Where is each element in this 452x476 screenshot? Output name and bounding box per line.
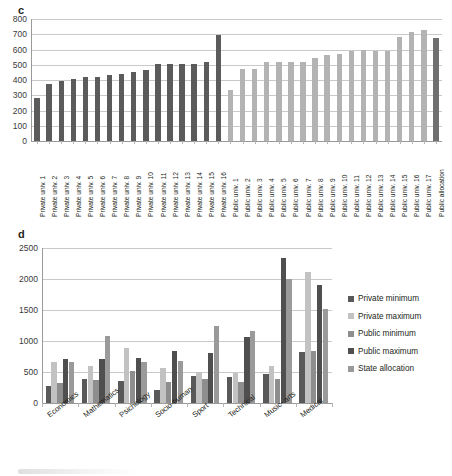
chart-c-x-label: Public univ. 13 [378,175,385,217]
chart-c-bar [131,72,136,141]
chart-c-x-label: Public univ. 17 [426,175,433,217]
x-axis-tick [388,141,389,144]
chart-c-x-label: Private univ. 16 [221,172,228,217]
legend-label: Public maximum [358,347,418,356]
x-axis-tick [303,141,304,144]
x-axis-tick [194,141,195,144]
x-axis-tick [351,141,352,144]
chart-d-bar [160,368,165,403]
chart-c-x-label: Private univ. 10 [148,172,155,217]
chart-d-bar [281,258,286,403]
chart-c-bar [155,64,160,141]
chart-c-x-label: Public allocation [439,169,446,217]
chart-c-bar [95,77,100,141]
x-axis-tick [110,141,111,144]
y-axis-tick-label: 500 [13,61,27,70]
x-axis-tick [376,141,377,144]
chart-c-bars [31,19,442,141]
chart-c-x-label: Public univ. 6 [293,178,300,217]
chart-c-x-label: Public univ. 10 [342,175,349,217]
chart-c-bar [300,62,305,141]
chart-d-bar [208,353,213,403]
x-axis-tick [327,141,328,144]
chart-c-bar [276,62,281,141]
legend-label: State allocation [358,364,414,373]
chart-d-bar [154,390,159,403]
legend-label: Private minimum [358,294,419,303]
x-axis-tick [37,141,38,144]
chart-c-bar [409,32,414,141]
chart-d-bar [227,377,232,403]
x-axis-tick [339,141,340,144]
legend-label: Public minimum [358,329,416,338]
y-axis-tick-label: 500 [24,368,38,377]
y-axis-tick-label: 1500 [19,306,38,315]
chart-d-bar [82,379,87,403]
legend-item[interactable]: Private maximum [348,308,452,326]
chart-d-bar [51,362,56,403]
x-axis-tick [315,141,316,144]
chart-d-bar [317,285,322,403]
x-axis-tick [49,141,50,144]
chart-c-bar [324,55,329,141]
chart-d-bar [214,326,219,403]
chart-c-bar [216,35,221,141]
chart-c-bar [179,64,184,141]
y-axis-tick-label: 400 [13,76,27,85]
x-axis-tick [424,141,425,144]
legend-label: Private maximum [358,312,421,321]
x-axis-tick [267,141,268,144]
chart-d-bar [124,348,129,403]
chart-d-x-label: Sport [191,402,210,419]
chart-d-bar [88,366,93,403]
chart-d-bar [196,372,201,403]
x-axis-tick [412,141,413,144]
legend-item[interactable]: State allocation [348,360,452,378]
legend-swatch-icon [348,348,354,354]
chart-d-bar [299,352,304,403]
chart-d-bar [305,272,310,403]
chart-c-x-label: Private univ. 12 [173,172,180,217]
x-axis-tick [97,141,98,144]
legend-item[interactable]: Public minimum [348,325,452,343]
chart-c-x-label: Public univ. 14 [390,175,397,217]
chart-c-bar [349,51,354,141]
chart-c-x-label: Private univ. 4 [76,176,83,217]
chart-c-x-label: Private univ. 7 [112,176,119,217]
y-axis-tick-label: 1000 [19,337,38,346]
x-axis-tick [170,141,171,144]
x-axis-tick [146,141,147,144]
chart-c-bar [312,58,317,141]
x-axis-tick [255,141,256,144]
chart-c-plot-area: 0100200300400500600700800 [31,19,442,141]
chart-c-bar [252,69,257,141]
x-axis-tick [158,141,159,144]
chart-c-x-label: Private univ. 5 [88,176,95,217]
legend-item[interactable]: Public maximum [348,343,452,361]
panel-c-chart: c 0100200300400500600700800 Private univ… [0,0,452,222]
chart-c-bar [228,90,233,141]
chart-c-x-label: Public univ. 2 [245,178,252,217]
chart-d-legend: Private minimumPrivate maximumPublic min… [348,290,452,378]
chart-c-bar [361,50,366,141]
chart-c-bar [59,81,64,141]
legend-item[interactable]: Private minimum [348,290,452,308]
chart-c-x-label: Private univ. 1 [40,176,47,217]
chart-c-bar [71,79,76,141]
legend-swatch-icon [348,296,354,302]
chart-c-bar [204,62,209,141]
chart-d-bar [46,386,51,403]
x-axis-tick [400,141,401,144]
x-axis-line [31,141,442,142]
chart-c-x-label: Public univ. 16 [414,175,421,217]
chart-d-bar [286,279,291,403]
chart-c-bar [385,51,390,141]
chart-c-bar [46,84,51,141]
y-axis-tick-label: 100 [13,122,27,131]
chart-c-x-label: Public univ. 9 [330,178,337,217]
chart-c-bar [288,62,293,141]
y-axis-tick-label: 200 [13,106,27,115]
chart-d-bar [323,309,328,403]
chart-d-bars [42,248,332,403]
chart-c-x-label: Private univ. 14 [197,172,204,217]
